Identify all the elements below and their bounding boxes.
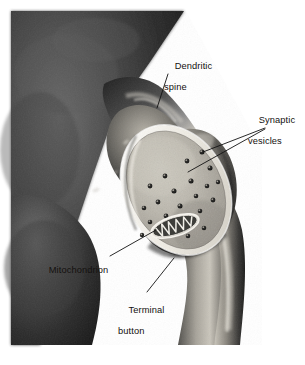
label-terminal-button-line1: Terminal [129,305,165,315]
label-terminal-button: Terminal button [118,294,164,358]
label-synaptic-vesicles-line1: Synaptic [259,115,295,125]
label-mitochondrion: Mitochondrion [38,254,108,286]
label-synaptic-vesicles-line2: vesicles [248,136,295,147]
label-dendritic-spine-line1: Dendritic [175,61,213,71]
label-mitochondrion-line1: Mitochondrion [49,265,109,275]
figure-root: Dendritic spine Synaptic vesicles Mitoch… [0,0,305,365]
label-synaptic-vesicles: Synaptic vesicles [248,104,295,168]
label-dendritic-spine: Dendritic spine [164,50,212,114]
label-terminal-button-line2: button [118,326,164,337]
label-dendritic-spine-line2: spine [164,82,212,93]
